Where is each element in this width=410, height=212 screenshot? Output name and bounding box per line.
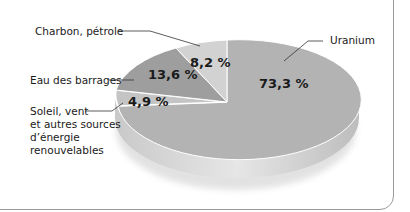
pct-eau: 13,6 % (148, 67, 198, 82)
pct-uranium: 73,3 % (259, 76, 309, 91)
label-eau: Eau des barrages (30, 74, 122, 87)
label-uranium: Uranium (330, 34, 375, 47)
label-soleil: Soleil, vent et autres sources d’énergie… (30, 105, 121, 157)
leader-charbon (118, 31, 200, 46)
pct-soleil: 4,9 % (128, 94, 169, 109)
label-charbon: Charbon, pétrole (35, 25, 123, 38)
